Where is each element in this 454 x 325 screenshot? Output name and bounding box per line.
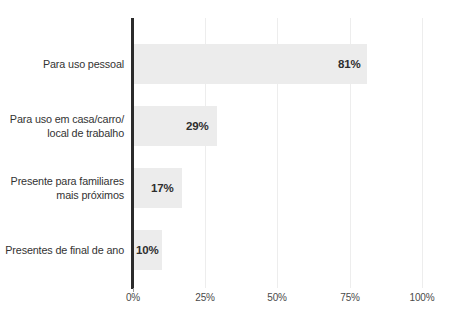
bar-value-0: 81% <box>338 58 360 70</box>
bar-para-uso-pessoal <box>133 44 367 84</box>
x-tick-label-100: 100% <box>402 292 442 303</box>
bar-value-2: 17% <box>151 182 173 194</box>
category-label-text-1: Para uso em casa/carro/ local de trabalh… <box>10 113 124 139</box>
category-label-text-2: Presente para familiares mais próximos <box>11 175 124 201</box>
category-label-0: Para uso pessoal <box>0 57 124 71</box>
bar-value-1: 29% <box>186 120 208 132</box>
x-tick-label-75: 75% <box>330 292 370 303</box>
category-label-text-0: Para uso pessoal <box>43 58 124 70</box>
category-label-1: Para uso em casa/carro/ local de trabalh… <box>0 112 124 140</box>
x-tick-label-25: 25% <box>185 292 225 303</box>
y-axis-line <box>131 18 134 289</box>
x-tick-label-0: 0% <box>113 292 153 303</box>
category-label-2: Presente para familiares mais próximos <box>0 174 124 202</box>
gridline-100 <box>422 18 423 288</box>
x-tick-label-50: 50% <box>257 292 297 303</box>
category-label-3: Presentes de final de ano <box>0 243 124 257</box>
bar-value-3: 10% <box>136 244 158 256</box>
category-label-text-3: Presentes de final de ano <box>5 244 124 256</box>
bar-chart: 81% 29% 17% 10% Para uso pessoal Para us… <box>0 0 454 325</box>
